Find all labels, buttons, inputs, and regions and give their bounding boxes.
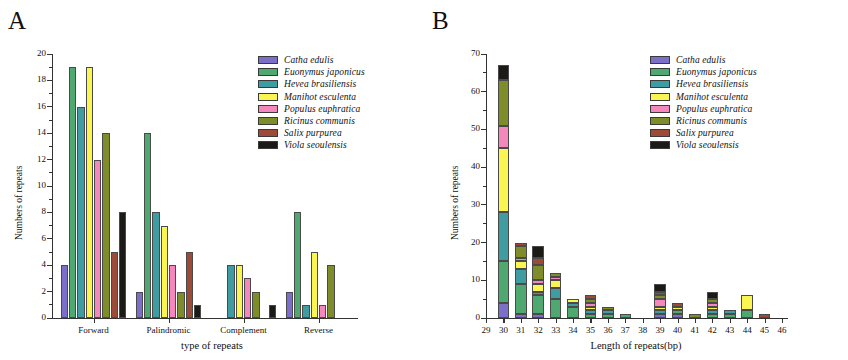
stacked-bar-segment [585,295,597,299]
legend-swatch-icon [258,117,278,125]
stacked-bar-segment [602,310,614,314]
panel-a-x-axis-title: type of repeats [0,340,424,351]
x-tick [169,319,170,323]
x-axis-line [486,318,788,319]
y-tick-major [47,265,52,266]
stacked-bar-segment [498,65,510,80]
x-tick [608,319,609,323]
stacked-bar [741,295,753,318]
x-tick [747,319,748,323]
y-tick-major [47,318,52,319]
x-tick [573,319,574,323]
stacked-bar-segment [515,258,527,262]
legend-item: Manihot esculenta [258,91,365,103]
legend-swatch-icon [650,68,670,76]
x-tick [678,319,679,323]
bar [144,133,151,318]
stacked-bar-segment [567,299,579,303]
y-tick-major [481,204,486,205]
y-tick-major [481,129,486,130]
legend-label: Ricinus communis [284,116,355,126]
y-tick-major [47,212,52,213]
stacked-bar-segment [585,303,597,307]
bar [302,305,309,318]
x-tick [782,319,783,323]
x-axis-line [52,318,358,319]
panel-b-y-axis-title: Numbers of repeats [450,166,460,240]
legend-item: Salix purpurea [258,127,365,139]
x-tick [712,319,713,323]
y-tick-label: 18 [18,74,46,84]
y-tick-label: 12 [18,154,46,164]
stacked-bar [672,303,684,318]
legend-swatch-icon [258,105,278,113]
stacked-bar [498,65,510,318]
y-tick-label: 70 [452,48,480,58]
legend-item: Populus euphratica [650,103,757,115]
y-tick-minor [49,304,52,305]
x-tick [695,319,696,323]
bar [111,252,118,318]
stacked-bar-segment [654,307,666,311]
y-tick-major [481,91,486,92]
y-tick-label: 2 [18,286,46,296]
legend-label: Viola seoulensis [284,140,347,150]
bar [169,265,176,318]
stacked-bar [567,299,579,318]
y-tick-minor [49,120,52,121]
stacked-bar-segment [515,261,527,269]
x-tick-label: Palindromic [141,325,197,335]
stacked-bar-segment [672,303,684,307]
stacked-bar-segment [515,243,527,247]
legend-label: Viola seoulensis [676,140,739,150]
stacked-bar-segment [532,295,544,314]
bar [77,107,84,318]
y-tick-label: 50 [452,123,480,133]
bar [286,292,293,318]
bar [194,305,201,318]
legend-item: Ricinus communis [650,115,757,127]
stacked-bar-segment [585,307,597,311]
figure-container: A 02468101214161820ForwardPalindromicCom… [0,0,848,360]
y-tick-minor [483,110,486,111]
x-tick [643,319,644,323]
stacked-bar-segment [550,277,562,281]
y-tick-minor [49,93,52,94]
legend-label: Populus euphratica [284,104,360,114]
legend-swatch-icon [258,129,278,137]
stacked-bar-segment [515,269,527,284]
stacked-bar-segment [550,273,562,277]
legend-item: Hevea brasiliensis [258,78,365,90]
bar [86,67,93,318]
stacked-bar-segment [707,292,719,300]
bar [69,67,76,318]
stacked-bar-segment [532,284,544,292]
stacked-bar [550,273,562,318]
panel-a-y-axis-title: Numbers of repeats [14,166,24,240]
y-tick-minor [483,223,486,224]
bar [327,265,334,318]
legend-label: Euonymus japonicus [284,67,365,77]
legend-label: Manihot esculenta [676,92,748,102]
stacked-bar-segment [550,299,562,318]
x-tick [660,319,661,323]
legend-label: Catha edulis [284,55,334,65]
legend-item: Catha edulis [258,54,365,66]
stacked-bar-segment [707,299,719,303]
legend-label: Salix purpurea [676,128,734,138]
y-tick-label: 0 [452,312,480,322]
legend-swatch-icon [650,93,670,101]
stacked-bar-segment [654,299,666,307]
legend-item: Populus euphratica [258,103,365,115]
legend-label: Hevea brasiliensis [676,79,748,89]
bar [227,265,234,318]
x-tick [521,319,522,323]
y-tick-major [47,159,52,160]
stacked-bar-segment [567,307,579,318]
stacked-bar-segment [707,307,719,311]
x-tick [244,319,245,323]
stacked-bar-segment [654,292,666,296]
panel-a-legend: Catha edulisEuonymus japonicusHevea bras… [258,54,365,152]
bar [94,160,101,318]
stacked-bar-segment [515,246,527,257]
